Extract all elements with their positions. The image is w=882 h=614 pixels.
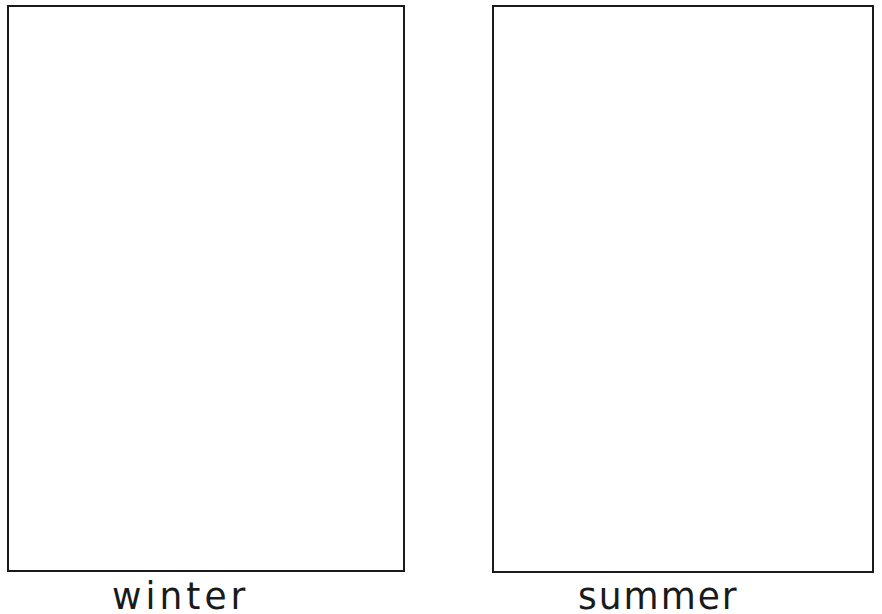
winter-drawing-box (7, 5, 405, 572)
winter-label: winter (112, 577, 249, 614)
summer-drawing-box (492, 5, 874, 573)
summer-label: summer (578, 577, 739, 614)
